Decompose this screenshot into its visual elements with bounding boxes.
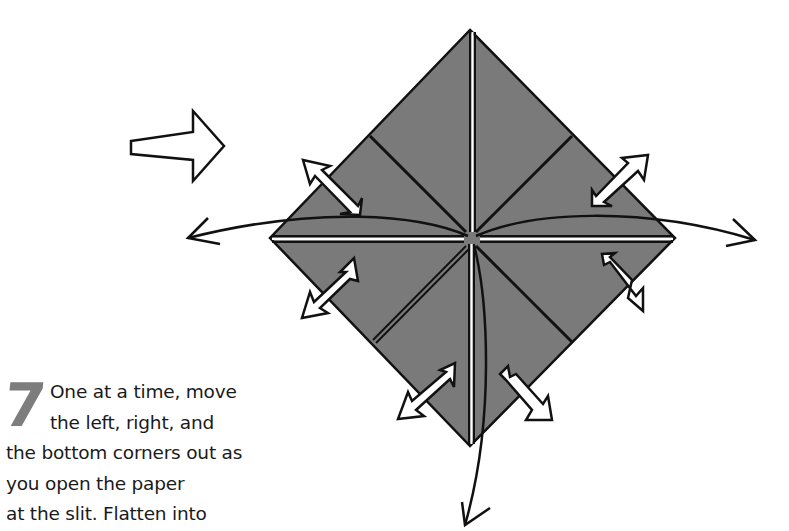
- instruction-line: One at a time, move: [6, 377, 326, 408]
- direction-arrow-right-icon: [131, 111, 224, 181]
- instruction-line: you open the paper: [6, 469, 326, 500]
- instruction-line: the left, right, and: [6, 408, 326, 439]
- instruction-line: the bottom corners out as: [6, 438, 326, 469]
- step-instruction: One at a time, move the left, right, and…: [6, 377, 326, 530]
- instruction-line: at the slit. Flatten into: [6, 499, 326, 530]
